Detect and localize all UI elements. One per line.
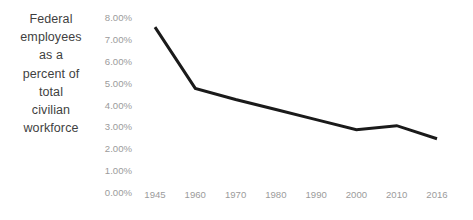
plot-area: [134, 11, 459, 186]
y-axis-tick-label: 7.00%: [96, 35, 132, 45]
y-axis-tick-label: 0.00%: [96, 188, 132, 198]
x-axis-tick-label: 1945: [144, 189, 165, 201]
y-axis-tick-label: 1.00%: [96, 166, 132, 176]
x-axis-tick-label: 1980: [265, 189, 286, 201]
x-axis-tick-label: 1970: [225, 189, 246, 201]
y-axis-tick-label: 6.00%: [96, 57, 132, 67]
series-line-federal-employees-percent: [134, 11, 459, 186]
line-chart: Federal employees as a percent of total …: [0, 0, 473, 220]
y-axis-tick-label: 4.00%: [96, 101, 132, 111]
chart-title: Federal employees as a percent of total …: [8, 10, 94, 137]
x-axis-tick-label: 2000: [346, 189, 367, 201]
y-axis: 8.00%7.00%6.00%5.00%4.00%3.00%2.00%1.00%…: [96, 11, 132, 186]
y-axis-tick-label: 8.00%: [96, 13, 132, 23]
x-axis-tick-label: 2010: [386, 189, 407, 201]
x-axis-tick-label: 1960: [185, 189, 206, 201]
x-axis: 19451960197019801990200020102016: [134, 189, 459, 209]
y-axis-tick-label: 3.00%: [96, 122, 132, 132]
y-axis-tick-label: 2.00%: [96, 144, 132, 154]
x-axis-tick-label: 2016: [426, 189, 447, 201]
series-polyline: [155, 27, 437, 139]
y-axis-tick-label: 5.00%: [96, 79, 132, 89]
x-axis-tick-label: 1990: [305, 189, 326, 201]
